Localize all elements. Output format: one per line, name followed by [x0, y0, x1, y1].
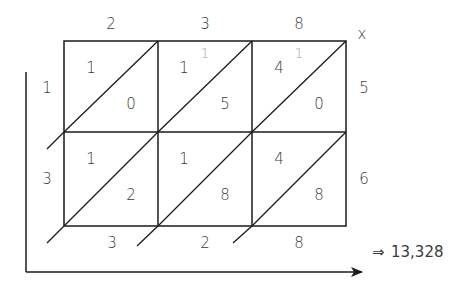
final-result: 13,328 — [391, 243, 444, 261]
cell-r1c2-tens: 1 — [179, 59, 189, 77]
multiplier-digit-2: 6 — [359, 170, 369, 188]
cell-r1c2-carry: 1 — [201, 45, 210, 61]
cell-r1c2-ones: 5 — [220, 95, 230, 113]
cell-r1c1-tens: 1 — [86, 59, 96, 77]
cell-r2c2-tens: 1 — [179, 150, 189, 168]
bottom-result-digit-2: 2 — [200, 234, 210, 252]
multiplicand-digit-1: 2 — [106, 15, 116, 33]
cell-r2c3-tens: 4 — [274, 150, 284, 168]
lattice-grid — [64, 41, 346, 226]
left-result-digit-1: 1 — [42, 79, 52, 97]
cell-r1c3-carry: 1 — [295, 45, 304, 61]
cell-r2c3-ones: 8 — [314, 186, 324, 204]
cell-r1c3-ones: 0 — [314, 95, 324, 113]
result-arrow-icon: ⇒ — [372, 243, 385, 261]
multiply-operator: x — [358, 25, 367, 43]
cell-r1c1-ones: 0 — [126, 95, 136, 113]
multiplier-digit-1: 5 — [359, 79, 369, 97]
multiplicand-digit-2: 3 — [200, 15, 210, 33]
cell-r1c3-tens: 4 — [274, 59, 284, 77]
cell-r2c1-tens: 1 — [86, 150, 96, 168]
bottom-result-digit-3: 8 — [294, 234, 304, 252]
left-result-digit-2: 3 — [42, 170, 52, 188]
lattice-diagram: 2 3 8 x 5 6 1 3 1 0 1 1 5 1 4 0 1 2 1 8 … — [0, 0, 461, 290]
cell-r2c1-ones: 2 — [126, 186, 136, 204]
bottom-result-digit-1: 3 — [107, 234, 117, 252]
multiplicand-digit-3: 8 — [294, 15, 304, 33]
cell-r2c2-ones: 8 — [220, 186, 230, 204]
